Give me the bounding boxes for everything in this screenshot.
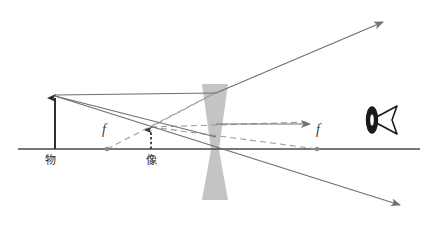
image-label: 像: [146, 154, 157, 167]
ray-diagram-canvas: 物 像 f f: [0, 0, 434, 228]
ray-near-focus-construction: [107, 93, 215, 149]
ray-toward-far-focus-incident: [55, 96, 216, 137]
observer-eye-icon: [367, 106, 398, 134]
concave-lens: [202, 84, 228, 200]
optics-diagram: 物 像 f f: [0, 0, 434, 228]
focal-point-left-dot: [105, 147, 110, 152]
ray-parallel-refracted: [216, 22, 383, 93]
ray-parallel-incident: [55, 93, 216, 95]
object-label: 物: [45, 153, 56, 167]
focal-right-label: f: [316, 122, 322, 137]
focal-point-right-dot: [315, 147, 320, 152]
focal-left-label: f: [102, 122, 108, 137]
ray-far-focus-virtual-extension: [151, 127, 317, 149]
